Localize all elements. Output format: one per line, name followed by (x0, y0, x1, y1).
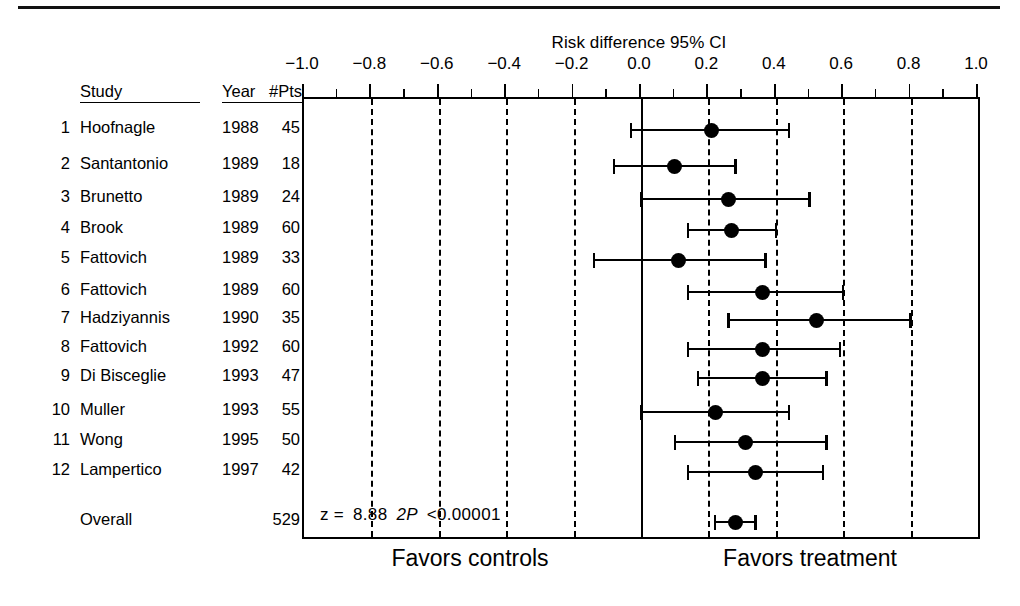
confidence-interval-cap-high (822, 465, 824, 480)
point-estimate-marker (748, 465, 763, 480)
axis-tick-major (369, 84, 371, 97)
axis-tick-major (504, 84, 506, 97)
confidence-interval-cap-high (825, 371, 827, 386)
axis-tick-major (706, 84, 708, 97)
row-index: 6 (48, 280, 70, 299)
axis-tick-major (437, 84, 439, 97)
gridline (843, 99, 845, 537)
row-patient-count: 45 (252, 118, 300, 137)
row-patient-count: 33 (252, 248, 300, 267)
confidence-interval-cap-low (687, 285, 689, 300)
z-label: z = (320, 505, 344, 524)
overall-patient-count: 529 (252, 510, 300, 529)
favors-controls-label: Favors controls (300, 545, 640, 572)
point-estimate-marker (667, 159, 682, 174)
gridline (506, 99, 508, 537)
confidence-interval-cap-high (764, 253, 766, 268)
confidence-interval-cap-low (630, 123, 632, 138)
confidence-interval-cap-high (734, 159, 736, 174)
row-index: 10 (48, 400, 70, 419)
axis-tick-major (841, 84, 843, 97)
axis-tick-minor (403, 89, 405, 97)
point-estimate-marker-overall (728, 515, 743, 530)
axis-tick-minor (336, 89, 338, 97)
confidence-interval-cap-low (714, 515, 716, 530)
axis-tick-minor (740, 89, 742, 97)
confidence-interval-cap-high (839, 342, 841, 357)
row-index: 11 (48, 430, 70, 449)
confidence-interval-cap-high (788, 405, 790, 420)
row-index: 4 (48, 218, 70, 237)
axis-tick-minor (875, 89, 877, 97)
column-header-pts: #Pts (262, 82, 302, 103)
chart-title: Risk difference 95% CI (302, 33, 976, 53)
point-estimate-marker (755, 342, 770, 357)
row-patient-count: 60 (252, 280, 300, 299)
confidence-interval-cap-low (687, 342, 689, 357)
row-index: 3 (48, 187, 70, 206)
confidence-interval-cap-low (640, 405, 642, 420)
confidence-interval-cap-low (687, 465, 689, 480)
gridline (371, 99, 373, 537)
axis-tick-label: 0.2 (676, 54, 736, 74)
confidence-interval-cap-high (808, 192, 810, 207)
axis-tick-minor (605, 89, 607, 97)
confidence-interval-cap-high (775, 223, 777, 238)
p-label: 2P (396, 505, 417, 524)
axis-tick-label: 1.0 (946, 54, 1006, 74)
forest-plot-figure: Risk difference 95% CI Study Year #Pts −… (0, 0, 1020, 606)
confidence-interval-cap-low (640, 192, 642, 207)
point-estimate-marker (724, 223, 739, 238)
row-study-name: Hoofnagle (80, 118, 155, 137)
confidence-interval-cap-low (697, 371, 699, 386)
axis-tick-label: −0.4 (474, 54, 534, 74)
row-study-name: Di Bisceglie (80, 366, 166, 385)
confidence-interval-cap-high (754, 515, 756, 530)
row-patient-count: 24 (252, 187, 300, 206)
point-estimate-marker (809, 313, 824, 328)
confidence-interval-cap-low (593, 253, 595, 268)
point-estimate-marker (721, 192, 736, 207)
row-study-name: Brunetto (80, 187, 142, 206)
axis-tick-major (572, 84, 574, 97)
row-index: 1 (48, 118, 70, 137)
overall-label: Overall (80, 510, 132, 529)
row-patient-count: 42 (252, 460, 300, 479)
axis-tick-major (302, 84, 304, 97)
axis-tick-minor (942, 89, 944, 97)
confidence-interval-cap-high (909, 313, 911, 328)
axis-tick-major (639, 84, 641, 97)
axis-tick-label: −0.6 (407, 54, 467, 74)
axis-tick-label: 0.6 (811, 54, 871, 74)
row-study-name: Muller (80, 400, 125, 419)
row-patient-count: 55 (252, 400, 300, 419)
confidence-interval-cap-low (727, 313, 729, 328)
confidence-interval-cap-high (825, 435, 827, 450)
row-patient-count: 35 (252, 308, 300, 327)
point-estimate-marker (671, 253, 686, 268)
row-study-name: Santantonio (80, 154, 168, 173)
point-estimate-marker (755, 285, 770, 300)
column-header-study: Study (80, 82, 200, 103)
confidence-interval-cap-low (674, 435, 676, 450)
axis-tick-label: −0.8 (339, 54, 399, 74)
axis-tick-label: 0.0 (609, 54, 669, 74)
overall-statistics: z = 8.88 2P <0.00001 (320, 505, 505, 525)
point-estimate-marker (738, 435, 753, 450)
row-patient-count: 60 (252, 337, 300, 356)
row-study-name: Fattovich (80, 248, 147, 267)
point-estimate-marker (755, 371, 770, 386)
row-study-name: Fattovich (80, 337, 147, 356)
axis-tick-major (976, 84, 978, 97)
confidence-interval-cap-low (613, 159, 615, 174)
axis-tick-label: −0.2 (542, 54, 602, 74)
confidence-interval-cap-high (788, 123, 790, 138)
z-value: 8.88 (353, 505, 387, 524)
row-study-name: Hadziyannis (80, 308, 170, 327)
confidence-interval-cap-high (842, 285, 844, 300)
gridline (574, 99, 576, 537)
row-index: 12 (48, 460, 70, 479)
axis-tick-minor (808, 89, 810, 97)
point-estimate-marker (708, 405, 723, 420)
row-index: 2 (48, 154, 70, 173)
